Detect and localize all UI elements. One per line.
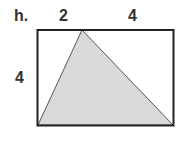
shaded-triangle — [38, 30, 173, 125]
rectangle-triangle-figure — [0, 0, 184, 141]
